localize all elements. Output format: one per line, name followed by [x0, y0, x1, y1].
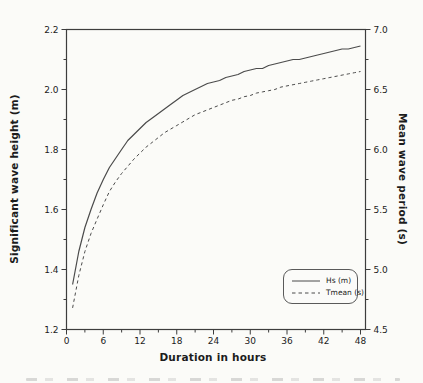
legend-item-tmean: Tmean (s) — [284, 288, 357, 297]
svg-text:5.0: 5.0 — [374, 265, 389, 275]
solid-line-sample-icon — [291, 279, 321, 283]
svg-text:6.5: 6.5 — [374, 85, 388, 95]
hs-curve — [73, 46, 361, 285]
wave-growth-chart-figure: 06121824303642481.21.41.61.82.02.24.55.0… — [0, 0, 423, 383]
svg-text:7.0: 7.0 — [374, 25, 389, 35]
svg-text:30: 30 — [245, 336, 257, 346]
svg-text:2.2: 2.2 — [44, 25, 58, 35]
svg-text:0: 0 — [64, 336, 70, 346]
legend-label-tmean: Tmean (s) — [326, 288, 364, 297]
svg-text:5.5: 5.5 — [374, 205, 388, 215]
svg-text:1.4: 1.4 — [44, 265, 59, 275]
svg-text:48: 48 — [355, 336, 367, 346]
x-axis-title: Duration in hours — [159, 351, 266, 363]
svg-text:1.8: 1.8 — [44, 145, 59, 155]
legend-label-hs: Hs (m) — [326, 276, 351, 285]
legend-item-hs: Hs (m) — [284, 276, 357, 285]
svg-text:42: 42 — [318, 336, 329, 346]
svg-text:6.0: 6.0 — [374, 145, 389, 155]
svg-text:4.5: 4.5 — [374, 325, 388, 335]
svg-text:24: 24 — [208, 336, 220, 346]
svg-text:1.2: 1.2 — [44, 325, 58, 335]
svg-text:36: 36 — [281, 336, 293, 346]
left-axis-title: Significant wave height (m) — [8, 94, 20, 264]
clipped-caption-fragment — [26, 378, 400, 381]
svg-text:12: 12 — [134, 336, 145, 346]
svg-text:6: 6 — [100, 336, 106, 346]
dashed-line-sample-icon — [291, 291, 321, 295]
svg-text:2.0: 2.0 — [44, 85, 59, 95]
svg-text:1.6: 1.6 — [44, 205, 59, 215]
right-axis-title: Mean wave period (s) — [397, 113, 409, 245]
legend-box: Hs (m) Tmean (s) — [283, 269, 358, 304]
chart-canvas: 06121824303642481.21.41.61.82.02.24.55.0… — [0, 0, 423, 383]
svg-text:18: 18 — [171, 336, 183, 346]
